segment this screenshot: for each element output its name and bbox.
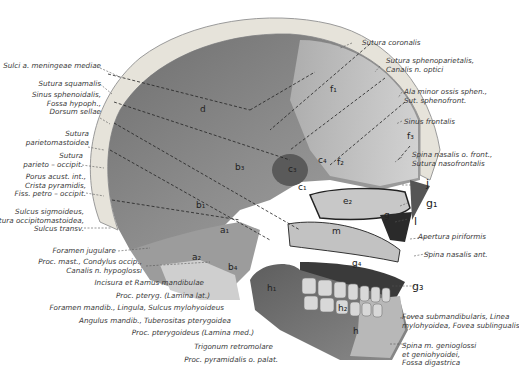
label-spina-nasalis-ant: Spina nasalis ant. [424, 251, 488, 260]
letter-h1: h₁ [267, 283, 276, 293]
label-sulcus-sigmoideus: Sulcus sigmoideus, Sutura occipitomastoi… [0, 208, 84, 234]
letter-a1: a₁ [220, 225, 229, 235]
letter-g4: g₄ [352, 258, 361, 268]
label-sutura-parietomastoidea: Sutura parietomastoidea [26, 130, 89, 147]
letter-f3: f₃ [407, 131, 414, 141]
concha-m [288, 222, 400, 262]
letter-h: h [353, 326, 359, 336]
letter-h2: h₂ [338, 303, 347, 313]
label-line: Sinus frontalis [404, 118, 455, 127]
label-incisura-ramus: Incisura et Ramus mandibulae [94, 279, 204, 288]
label-sinus-sphenoidalis: Sinus sphenoidalis, Fossa hypoph., Dorsu… [32, 91, 101, 117]
letter-m: m [332, 226, 341, 236]
letter-g3: g₃ [412, 280, 423, 293]
label-line: Foramen jugulare [52, 247, 116, 256]
label-trigonum: Trigonum retromolare [194, 343, 273, 352]
letter-b1: b₁ [196, 200, 205, 210]
letter-g1: g₁ [426, 197, 437, 210]
label-angulus-mandib: Angulus mandib., Tuberositas pterygoidea [79, 317, 231, 326]
label-line: Canalis n. hypoglossi [38, 267, 142, 276]
label-sutura-parieto-occipit: Sutura parieto – occipit. [23, 152, 83, 169]
label-line: Sulcus transv. [0, 225, 84, 234]
label-proc-pteryg-lat: Proc. pteryg. (Lamina lat.) [116, 292, 210, 301]
label-ala-minor: Ala minor ossis sphen., Sut. sphenofront… [404, 88, 487, 105]
letter-c3: c₃ [288, 164, 297, 174]
letter-c1: c₁ [298, 182, 307, 192]
label-apertura-piriformis: Apertura piriformis [418, 233, 486, 242]
label-proc-pyramidalis: Proc. pyramidalis o. palat. [184, 356, 278, 365]
label-sulci-meningeae: Sulci a. meningeae mediae [3, 62, 101, 71]
letter-f2: f₂ [337, 157, 344, 167]
letter-f1: f₁ [330, 84, 337, 94]
label-line: parietomastoidea [26, 139, 89, 148]
label-line: Sulci a. meningeae mediae [3, 62, 101, 71]
label-spina-genioglossi: Spina m. genioglossi et geniohyoidei, Fo… [402, 342, 476, 368]
letter-d: d [200, 104, 206, 114]
label-line: Dorsum sellae [32, 108, 101, 117]
label-fovea-submandibularis: Fovea submandibularis, Linea mylohyoidea… [402, 313, 519, 330]
label-porus-acust: Porus acust. int., Crista pyramidis, Fis… [15, 173, 86, 199]
label-line: Fiss. petro – occipit. [15, 190, 86, 199]
letter-c4: c₄ [318, 155, 327, 165]
letter-j: j [426, 177, 429, 190]
label-spina-nasalis-front: Spina nasalis o. front., Sutura nasofron… [412, 151, 492, 168]
letter-b3: b₃ [235, 162, 244, 172]
label-sutura-coronalis: Sutura coronalis [362, 39, 421, 48]
label-line: Apertura piriformis [418, 233, 486, 242]
label-line: Canalis n. optici [386, 66, 474, 75]
label-line: mylohyoidea, Fovea sublingualis [402, 322, 519, 331]
label-line: Spina nasalis ant. [424, 251, 488, 260]
letter-a2: a₂ [192, 252, 201, 262]
label-sinus-frontalis: Sinus frontalis [404, 118, 455, 127]
letter-b4: b₄ [228, 262, 237, 272]
letter-g: g [384, 210, 390, 220]
label-line: Fossa digastrica [402, 359, 476, 368]
letter-l: l [414, 215, 417, 228]
label-line: Sutura squamalis [38, 80, 101, 89]
label-line: Sutura nasofrontalis [412, 160, 492, 169]
label-foramen-jugulare: Foramen jugulare [52, 247, 116, 256]
label-line: Sutura coronalis [362, 39, 421, 48]
label-proc-mast: Proc. mast., Condylus occip., Canalis n.… [38, 258, 142, 275]
label-sutura-squamalis: Sutura squamalis [38, 80, 101, 89]
label-foramen-mandib: Foramen mandib., Lingula, Sulcus mylohyo… [49, 304, 224, 313]
label-proc-pteryg-med: Proc. pterygoideus (Lamina med.) [132, 329, 254, 338]
letter-e2: e₂ [343, 196, 352, 206]
label-line: Sut. sphenofront. [404, 97, 487, 106]
label-line: parieto – occipit. [23, 161, 83, 170]
label-sutura-sphenoparietalis: Sutura sphenoparietalis, Canalis n. opti… [386, 57, 474, 74]
